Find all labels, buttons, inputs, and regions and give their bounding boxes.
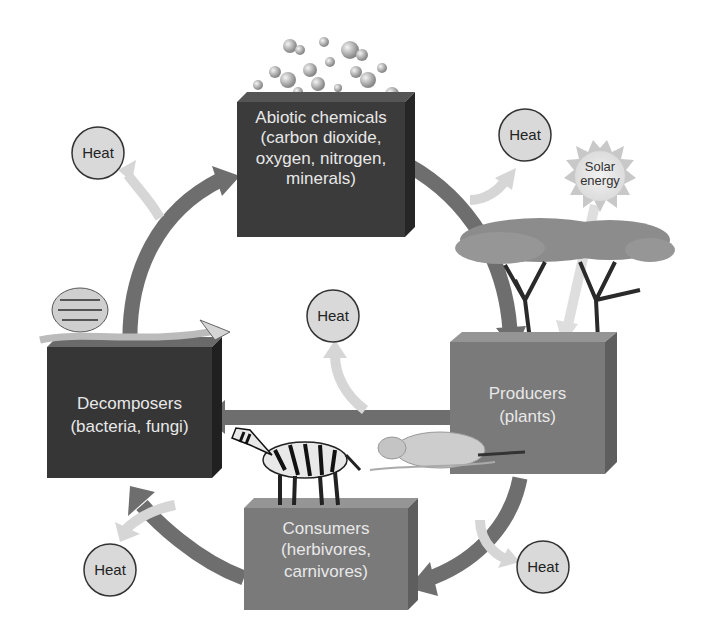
decomposers-line-1: Decomposers [47, 393, 212, 416]
consumers-line-3: carnivores) [244, 561, 408, 582]
heat-label-middle: Heat [307, 308, 359, 323]
solar-energy-label: Solar energy [570, 160, 630, 189]
heat-label-top-left: Heat [72, 145, 124, 160]
heat-arrow-top-left [118, 160, 160, 218]
arrow-producers-to-consumers [408, 478, 520, 596]
abiotic-line-1: Abiotic chemicals [237, 108, 405, 128]
heat-label-top-right: Heat [499, 127, 551, 142]
abiotic-chemicals-label: Abiotic chemicals (carbon dioxide, oxyge… [237, 108, 405, 190]
heat-label-bottom-left: Heat [84, 562, 136, 577]
abiotic-line-3: oxygen, nitrogen, [237, 149, 405, 169]
heat-label-bottom-right: Heat [517, 559, 569, 574]
decomposers-label: Decomposers (bacteria, fungi) [47, 393, 212, 439]
consumers-label: Consumers (herbivores, carnivores) [244, 518, 408, 582]
producers-line-1: Producers [450, 383, 605, 406]
consumers-line-2: (herbivores, [244, 539, 408, 560]
solar-line-1: Solar [570, 160, 630, 174]
abiotic-line-2: (carbon dioxide, [237, 128, 405, 148]
consumers-line-1: Consumers [244, 518, 408, 539]
producers-line-2: (plants) [450, 406, 605, 429]
producers-label: Producers (plants) [450, 383, 605, 429]
heat-arrow-top-right [470, 168, 516, 200]
solar-line-2: energy [570, 174, 630, 188]
zebra-illustration [232, 428, 360, 505]
arrow-consumers-to-decomposers [128, 486, 244, 578]
heat-arrow-middle [323, 340, 365, 410]
decomposers-line-2: (bacteria, fungi) [47, 416, 212, 439]
abiotic-line-4: minerals) [237, 169, 405, 189]
